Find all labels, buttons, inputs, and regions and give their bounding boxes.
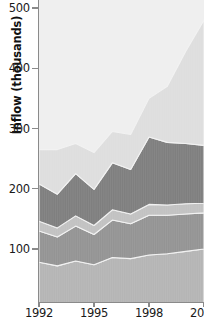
y-tick-label: 300 (0, 122, 30, 136)
y-tick-label: 100 (0, 242, 30, 256)
x-tick-label: 200 (190, 306, 204, 319)
plot-area (39, 0, 204, 302)
stacked-area-chart: Inflow (thousands) 500400300200100 19921… (0, 0, 204, 319)
y-tick-mark (32, 128, 38, 129)
y-tick-mark (32, 68, 38, 69)
y-tick-label: 400 (0, 61, 30, 75)
y-tick-label: 500 (0, 1, 30, 15)
y-axis-line (38, 0, 39, 302)
area-series-group (39, 0, 204, 302)
y-tick-mark (32, 188, 38, 189)
x-tick-label: 1998 (135, 306, 163, 319)
x-axis-line (38, 302, 204, 303)
y-tick-mark (32, 7, 38, 8)
x-tick-label: 1995 (80, 306, 108, 319)
x-tick-label: 1992 (25, 306, 53, 319)
y-tick-label: 200 (0, 182, 30, 196)
y-tick-mark (32, 248, 38, 249)
